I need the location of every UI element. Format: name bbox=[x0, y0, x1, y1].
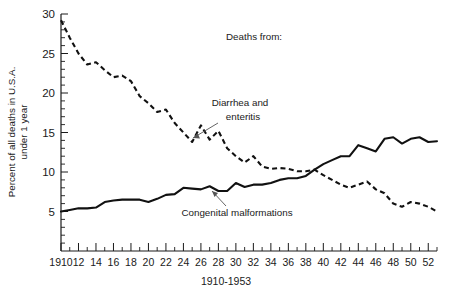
y-axis-tick-label: 15 bbox=[42, 127, 55, 139]
x-axis-tick-label: 46 bbox=[370, 256, 382, 268]
chart-figure: 51015202530 1910121416182022242628303234… bbox=[0, 0, 453, 294]
annotation-diarrhea-line1: Diarrhea and bbox=[212, 97, 269, 108]
y-axis-tick-label: 5 bbox=[49, 206, 55, 218]
annotation-diarrhea-line2: enteritis bbox=[226, 111, 260, 122]
x-axis-tick-label: 50 bbox=[405, 256, 417, 268]
x-axis-tick-label: 20 bbox=[143, 256, 155, 268]
x-axis-tick-label: 34 bbox=[265, 256, 277, 268]
x-axis-tick-label: 36 bbox=[283, 256, 295, 268]
x-axis-tick-label: 1910 bbox=[49, 256, 73, 268]
y-axis-tick-label: 30 bbox=[42, 8, 55, 20]
x-axis-tick-label: 16 bbox=[108, 256, 120, 268]
x-axis-tick-label: 40 bbox=[317, 256, 329, 268]
x-axis-tick-label: 38 bbox=[300, 256, 312, 268]
x-axis: 1910121416182022242628303234363840424446… bbox=[49, 243, 437, 268]
x-axis-tick-label: 32 bbox=[248, 256, 260, 268]
x-axis-tick-label: 26 bbox=[195, 256, 207, 268]
x-axis-tick-label: 42 bbox=[335, 256, 347, 268]
series-line-congenital-malformations bbox=[61, 137, 437, 211]
x-axis-tick-labels: 1910121416182022242628303234363840424446… bbox=[49, 256, 434, 268]
x-axis-tick-label: 44 bbox=[352, 256, 364, 268]
x-axis-tick-label: 52 bbox=[422, 256, 434, 268]
x-axis-tick-label: 12 bbox=[73, 256, 85, 268]
x-axis-tick-label: 18 bbox=[125, 256, 137, 268]
y-axis-tick-label: 10 bbox=[42, 166, 55, 178]
x-axis-tick-label: 22 bbox=[160, 256, 172, 268]
x-axis-tick-label: 30 bbox=[230, 256, 242, 268]
y-axis-title-line1: Percent of all deaths in U.S.A. bbox=[6, 67, 17, 198]
y-axis-tick-label: 25 bbox=[42, 48, 55, 60]
x-axis-title: 1910-1953 bbox=[201, 275, 251, 287]
x-axis-tick-label: 28 bbox=[213, 256, 225, 268]
y-axis: 51015202530 bbox=[42, 8, 68, 251]
line-chart-svg: 51015202530 1910121416182022242628303234… bbox=[0, 0, 453, 294]
x-axis-tick-label: 14 bbox=[90, 256, 102, 268]
y-axis-title-line2: under 1 year bbox=[18, 104, 29, 160]
y-axis-tick-labels: 51015202530 bbox=[42, 8, 55, 218]
y-axis-tick-label: 20 bbox=[42, 87, 55, 99]
x-axis-tick-label: 24 bbox=[178, 256, 190, 268]
legend-title: Deaths from: bbox=[226, 31, 282, 42]
x-axis-tick-label: 48 bbox=[387, 256, 399, 268]
annotation-congenital-malformations: Congenital malformations bbox=[181, 207, 292, 218]
y-axis-major-ticks bbox=[61, 14, 68, 212]
